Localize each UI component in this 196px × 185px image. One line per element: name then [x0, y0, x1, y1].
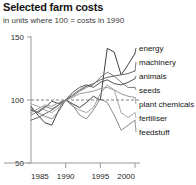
x-tick-label: 2000 [117, 172, 135, 181]
leader-line-plant-chemicals [135, 97, 136, 104]
legend-label-plant-chemicals: plant chemicals [139, 100, 194, 109]
legend-labels: energymachineryanimalsseedsplant chemica… [139, 44, 194, 137]
x-axis-ticks: 1985199019952000 [31, 163, 136, 181]
leader-line-energy [135, 48, 136, 53]
leader-line-animals [135, 76, 136, 79]
chart-container: Selected farm costs in units where 100 =… [0, 0, 196, 185]
y-tick-label: 150 [11, 33, 25, 42]
leader-line-fertiliser [135, 113, 136, 118]
series-lines [31, 48, 135, 130]
x-tick-label: 1995 [91, 172, 109, 181]
x-tick-label: 1990 [57, 172, 75, 181]
legend-label-machinery: machinery [139, 58, 176, 67]
y-tick-label: 100 [11, 96, 25, 105]
series-line-seeds [31, 72, 135, 115]
legend-label-seeds: seeds [139, 86, 160, 95]
x-tick-label: 1985 [31, 172, 49, 181]
legend-label-feedstuff: feedstuff [139, 128, 170, 137]
legend-leader-lines [135, 48, 136, 132]
series-line-energy [31, 48, 135, 125]
leader-line-feedstuff [135, 120, 136, 132]
leader-line-seeds [135, 87, 136, 90]
series-line-machinery [31, 71, 135, 120]
series-line-feedstuff [31, 99, 135, 131]
legend-label-fertiliser: fertiliser [139, 114, 167, 123]
y-axis-ticks: 50100150 [11, 33, 31, 168]
legend-label-animals: animals [139, 72, 167, 81]
leader-line-machinery [135, 62, 136, 71]
legend-label-energy: energy [139, 44, 163, 53]
line-chart-plot: 50100150 1985199019952000 energymachiner… [0, 0, 196, 185]
